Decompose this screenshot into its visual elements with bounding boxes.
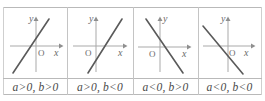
graph-cell-case-1: y x O	[4, 8, 67, 78]
table-right-border	[261, 7, 262, 95]
label-cell-case-2: a>0, b<0	[67, 79, 133, 94]
y-axis-label-case-4: y	[220, 13, 226, 24]
origin-label-case-1: O	[38, 48, 45, 58]
axes-case-3	[138, 17, 192, 73]
label-row: a>0, b>0 a>0, b<0 a<0, b>0 a<0, b<0	[4, 79, 261, 94]
case-2-condition-text: a>0, b<0	[77, 81, 123, 93]
y-axis-label-case-2: y	[88, 13, 94, 24]
line-case-4	[203, 26, 243, 74]
x-axis-label-case-1: x	[53, 47, 59, 58]
case-1-condition-text: a>0, b>0	[13, 81, 59, 93]
label-cell-case-1: a>0, b>0	[4, 79, 67, 94]
axes-case-2	[73, 17, 128, 73]
case-4-condition-text: a<0, b<0	[207, 81, 253, 93]
x-axis-label-case-2: x	[117, 47, 123, 58]
axes-case-1	[10, 17, 64, 73]
graph-row: y x O y x O	[4, 8, 261, 78]
linear-function-sign-chart: y x O y x O	[0, 0, 265, 101]
origin-label-case-4: O	[229, 48, 236, 58]
x-axis-label-case-3: x	[181, 48, 187, 59]
axes-case-4	[203, 17, 256, 73]
x-axis-label-case-4: x	[243, 47, 249, 58]
y-axis-label-case-1: y	[28, 13, 34, 24]
graph-cell-case-2: y x O	[67, 8, 133, 78]
label-cell-case-4: a<0, b<0	[198, 79, 261, 94]
graph-cell-case-4: y x O	[198, 8, 261, 78]
label-cell-case-3: a<0, b>0	[133, 79, 198, 94]
graph-cell-case-3: y x O	[133, 8, 198, 78]
origin-label-case-2: O	[85, 48, 92, 58]
line-case-3	[146, 19, 183, 73]
origin-label-case-3: O	[149, 49, 156, 59]
case-3-condition-text: a<0, b>0	[143, 81, 189, 93]
y-axis-label-case-3: y	[162, 13, 168, 24]
